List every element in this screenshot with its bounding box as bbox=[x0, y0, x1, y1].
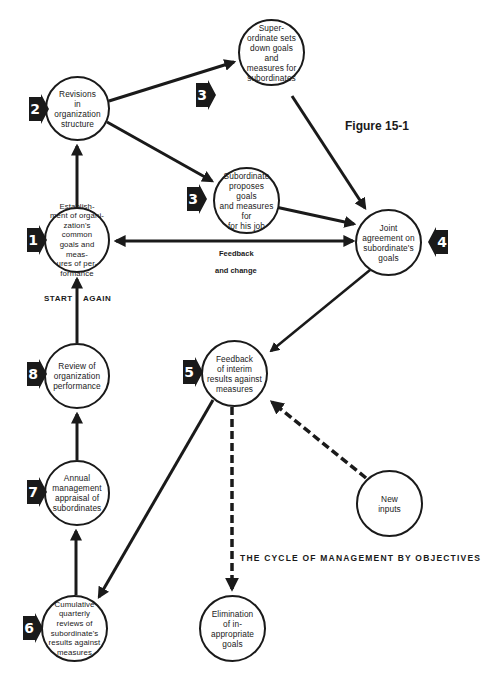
node-text-line: Elimination bbox=[211, 609, 254, 619]
node-text-line: goals and meas- bbox=[48, 240, 106, 259]
feedback-label: Feedback bbox=[219, 249, 254, 258]
step-badge-7: 7 bbox=[27, 477, 47, 507]
step-badge-4: 4 bbox=[428, 227, 448, 257]
node-text-line: ordinate sets bbox=[244, 33, 299, 43]
node-text-line: performance bbox=[53, 381, 101, 391]
node-text-line: reviews of bbox=[49, 619, 101, 629]
node-establishment-common-goals: Establish- ment of organi- zation's comm… bbox=[44, 207, 110, 273]
node-text-line: appraisal of bbox=[52, 493, 101, 503]
step-number: 3 bbox=[187, 190, 199, 208]
step-number: 8 bbox=[27, 365, 39, 383]
arrow-joint-to-feedback bbox=[271, 270, 370, 351]
node-annual-management-appraisal: Annualmanagementappraisal ofsubordinates bbox=[44, 460, 110, 526]
step-badge-3-subordinate: 3 bbox=[187, 184, 207, 214]
node-text-line: measures for bbox=[244, 63, 299, 73]
step-number: 1 bbox=[27, 231, 39, 249]
node-joint-agreement: Jointagreement onsubordinate'sgoals bbox=[355, 209, 422, 276]
node-new-inputs: Newinputs bbox=[356, 470, 423, 537]
node-elimination-inappropriate-goals: Eliminationof in-appropriategoals bbox=[199, 595, 266, 662]
arrow-superordinate-to-joint bbox=[292, 96, 365, 208]
node-text-line: results against bbox=[207, 374, 262, 384]
step-number: 3 bbox=[196, 86, 208, 104]
step-badge-3-superordinate: 3 bbox=[196, 80, 216, 110]
node-text-line: formance bbox=[48, 269, 106, 279]
step-badge-6: 6 bbox=[23, 613, 43, 643]
node-text-line: subordinate's bbox=[362, 243, 414, 253]
step-number: 4 bbox=[436, 233, 448, 251]
step-badge-1: 1 bbox=[27, 225, 47, 255]
node-superordinate-sets-goals: Super-ordinate setsdown goals andmeasure… bbox=[238, 19, 305, 86]
arrow-revisions-to-subordinate bbox=[107, 122, 212, 181]
node-text-line: Review of bbox=[53, 361, 101, 371]
figure-title: Figure 15-1 bbox=[345, 119, 409, 133]
node-text-line: structure bbox=[51, 119, 104, 129]
node-text-line: subordinate's bbox=[49, 629, 101, 639]
node-text-line: Feedback bbox=[207, 354, 262, 364]
arrow-new-inputs-to-feedback bbox=[272, 402, 366, 478]
node-text-line: of in- bbox=[211, 619, 254, 629]
node-text-line: New bbox=[378, 494, 401, 504]
node-text-line: down goals and bbox=[244, 43, 299, 63]
node-text-line: zation's common bbox=[48, 221, 106, 240]
step-badge-8: 8 bbox=[27, 359, 47, 389]
node-revisions-org-structure: Revisionsin organizationstructure bbox=[45, 76, 110, 141]
node-text-line: ures of per- bbox=[48, 259, 106, 269]
node-text-line: ment of organi- bbox=[48, 211, 106, 221]
node-text-line: inputs bbox=[378, 504, 401, 514]
node-feedback-interim-results: Feedbackof interimresults againstmeasure… bbox=[201, 340, 268, 407]
node-text-line: Super- bbox=[244, 23, 299, 33]
node-review-org-performance: Review oforganizationperformance bbox=[44, 343, 110, 409]
step-number: 5 bbox=[183, 363, 195, 381]
node-cumulative-quarterly-reviews: Cumulativequarterlyreviews ofsubordinate… bbox=[41, 595, 108, 662]
node-text-line: Revisions bbox=[51, 89, 104, 99]
step-number: 6 bbox=[23, 619, 35, 637]
node-text-line: appropriate bbox=[211, 629, 254, 639]
node-text-line: management bbox=[52, 483, 101, 493]
node-text-line: of interim bbox=[207, 364, 262, 374]
step-number: 7 bbox=[27, 483, 39, 501]
node-text-line: organization bbox=[53, 371, 101, 381]
node-text-line: goals bbox=[211, 639, 254, 649]
node-text-line: Joint bbox=[362, 223, 414, 233]
node-text-line: in organization bbox=[51, 99, 104, 119]
start-label: START bbox=[44, 294, 73, 303]
again-label: AGAIN bbox=[83, 294, 111, 303]
node-text-line: for his job bbox=[219, 221, 274, 231]
node-text-line: subordinates bbox=[52, 503, 101, 513]
node-text-line: results against bbox=[49, 638, 101, 648]
node-text-line: proposes goals bbox=[219, 181, 274, 201]
and-change-label: and change bbox=[215, 266, 257, 275]
arrow-feedback-to-cumulative bbox=[99, 400, 213, 597]
node-text-line: measures bbox=[49, 648, 101, 658]
step-number: 2 bbox=[29, 100, 41, 118]
node-text-line: subordinates bbox=[244, 73, 299, 83]
node-text-line: measures bbox=[207, 384, 262, 394]
node-text-line: Subordinate bbox=[219, 171, 274, 181]
node-text-line: Establish- bbox=[48, 202, 106, 212]
step-badge-5: 5 bbox=[183, 357, 203, 387]
node-text-line: and measures for bbox=[219, 201, 274, 221]
node-subordinate-proposes-goals: Subordinateproposes goalsand measures fo… bbox=[213, 167, 280, 234]
arrow-subordinate-to-joint bbox=[271, 206, 354, 224]
node-text-line: quarterly bbox=[49, 609, 101, 619]
figure-caption: THE CYCLE OF MANAGEMENT BY OBJECTIVES bbox=[240, 553, 481, 563]
step-badge-2: 2 bbox=[29, 94, 49, 124]
node-text-line: goals bbox=[362, 253, 414, 263]
node-text-line: agreement on bbox=[362, 233, 414, 243]
node-text-line: Cumulative bbox=[49, 600, 101, 610]
node-text-line: Annual bbox=[52, 473, 101, 483]
